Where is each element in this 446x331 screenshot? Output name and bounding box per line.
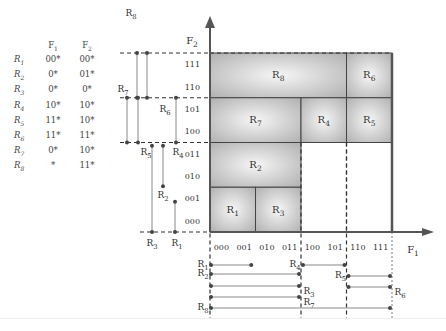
f2-range-label: R5	[140, 147, 151, 160]
divider	[0, 318, 446, 319]
x-axis-label: F1	[407, 244, 419, 258]
f2-range-label: R3	[146, 238, 157, 251]
x-tick: 001	[236, 243, 251, 252]
y-tick: 001	[185, 194, 200, 203]
y-tick: 101	[185, 105, 200, 114]
range-endpoint	[297, 272, 301, 276]
range-endpoint	[150, 230, 154, 234]
range-endpoint	[173, 230, 177, 234]
range-endpoint	[161, 184, 165, 188]
range-endpoint	[209, 295, 213, 299]
range-endpoint	[174, 141, 178, 145]
y-tick: 000	[185, 217, 200, 226]
y-tick: 011	[185, 150, 200, 159]
range-endpoint	[174, 96, 178, 100]
range-endpoint	[209, 284, 213, 288]
packet-classification-diagram: R8R6R7R4R5R2R1R3 F2F1 000001010011100101…	[0, 0, 446, 331]
range-endpoint	[249, 263, 253, 267]
f2-range-bars: R8R7R6R5R4R3R2R1	[117, 8, 183, 251]
x-tick: 111	[373, 243, 388, 252]
range-endpoint	[388, 274, 392, 278]
f2-range-label: R6	[159, 104, 170, 117]
range-endpoint	[209, 306, 213, 310]
range-endpoint	[150, 144, 154, 148]
f1-range-label: R6	[394, 287, 405, 300]
x-tick: 110	[350, 243, 365, 252]
f1-range-label: R5	[335, 270, 346, 283]
f2-range-label: R7	[117, 84, 128, 97]
f1-range-label: R4	[289, 259, 300, 272]
f2-range-label: R8	[125, 8, 136, 21]
x-tick: 011	[282, 243, 297, 252]
range-endpoint	[161, 144, 165, 148]
range-endpoint	[297, 295, 301, 299]
y-tick: 111	[185, 60, 200, 69]
x-tick: 010	[259, 243, 274, 252]
x-tick: 000	[214, 243, 229, 252]
f1-range-label: R8	[197, 302, 208, 315]
range-endpoint	[301, 263, 305, 267]
range-endpoint	[388, 306, 392, 310]
y-tick: 010	[185, 172, 200, 181]
range-endpoint	[173, 200, 177, 204]
y-tick: 110	[185, 83, 200, 92]
range-endpoint	[136, 96, 140, 100]
range-endpoint	[136, 141, 140, 145]
y-axis-arrow-icon	[205, 16, 215, 28]
range-endpoint	[347, 285, 351, 289]
range-endpoint	[145, 51, 149, 55]
range-endpoint	[297, 284, 301, 288]
x-axis-arrow-icon	[422, 228, 434, 236]
y-tick: 100	[185, 127, 200, 136]
x-tick: 101	[327, 243, 342, 252]
range-endpoint	[145, 96, 149, 100]
x-tick: 100	[305, 243, 320, 252]
range-endpoint	[343, 263, 347, 267]
range-endpoint	[135, 51, 139, 55]
range-endpoint	[125, 141, 129, 145]
range-endpoint	[209, 263, 213, 267]
range-endpoint	[388, 285, 392, 289]
f2-range-label: R2	[157, 190, 168, 203]
range-endpoint	[347, 274, 351, 278]
range-endpoint	[209, 272, 213, 276]
y-axis-label: F2	[186, 35, 198, 49]
f2-range-label: R1	[171, 238, 182, 251]
f2-range-label: R4	[172, 147, 183, 160]
